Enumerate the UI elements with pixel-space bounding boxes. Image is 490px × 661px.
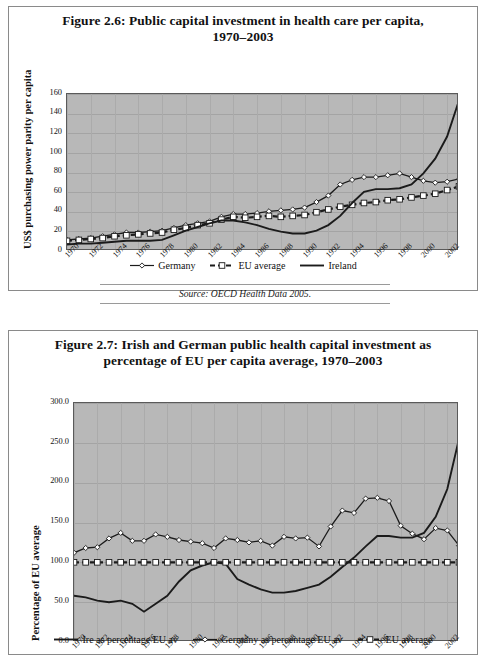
y-axis-tick-label: 60 [22,186,62,195]
data-point-marker-square [409,194,415,200]
data-point-marker-square [444,187,450,193]
data-point-marker-square [135,231,141,237]
data-point-marker-diamond [456,543,458,548]
data-point-marker-square [112,233,118,239]
legend-entry: Ireland [299,259,356,271]
data-point-marker-square [340,559,346,565]
data-point-marker-square [361,200,367,206]
y-axis-tick-label: 160 [22,88,62,97]
legend-entry: EU average [209,259,285,271]
data-point-marker-diamond [141,538,146,543]
legend-solid-line-icon [53,635,79,644]
data-point-marker-square [141,559,147,565]
figure-2-6-title: Figure 2.6: Public capital investment in… [35,13,451,46]
data-point-marker-square [95,559,101,565]
figure-2-6-title-line1: Figure 2.6: Public capital investment in… [62,13,424,28]
data-point-marker-square [305,559,311,565]
data-point-marker-square [278,214,284,220]
data-point-marker-square [302,212,308,218]
legend-label: Germany as percentage EU av [221,634,343,645]
figure-2-6-legend: GermanyEU averageIreland [9,258,477,271]
data-point-marker-diamond [397,171,402,176]
figure-2-7-title-line2: percentage of EU per capita average, 197… [104,353,383,368]
y-axis-tick-label: 150.0 [29,516,69,525]
data-point-marker-square [363,559,369,565]
data-point-marker-square [293,559,299,565]
data-point-marker-square [326,206,332,212]
figure-2-7-title-line1: Figure 2.7: Irish and German public heal… [55,337,432,352]
data-point-marker-square [456,559,458,565]
y-axis-tick-label: 300.0 [29,397,69,406]
legend-square-dashed-icon [209,261,235,270]
legend-diamond-marker-icon [192,635,218,644]
data-point-marker-square [398,559,404,565]
data-point-marker-diamond [235,537,240,542]
data-point-marker-diamond [176,537,181,542]
legend-entry: Germany [129,259,195,271]
data-point-marker-square [445,559,451,565]
data-point-marker-square [106,559,112,565]
source-rule-bottom [100,303,390,304]
y-axis-tick-label: 100 [22,147,62,156]
data-point-marker-square [124,232,130,238]
figure-2-7-plot-area [73,402,458,641]
data-point-marker-square [266,213,272,219]
data-point-marker-square [421,192,427,198]
data-point-marker-square [147,230,153,236]
data-point-marker-diamond [188,539,193,544]
y-axis-tick-label: 40 [22,205,62,214]
figure-2-6-plot-area [66,93,458,250]
data-point-marker-square [254,214,260,220]
data-point-marker-square [328,559,334,565]
data-point-marker-square [159,229,165,235]
y-axis-tick-label: 100.0 [29,556,69,565]
data-point-marker-diamond [421,178,426,183]
legend-solid-line-icon [299,261,325,270]
y-axis-tick-label: 20 [22,225,62,234]
data-point-marker-diamond [290,207,295,212]
legend-label: EU average [238,260,285,271]
y-axis-tick-label: 80 [22,166,62,175]
data-point-marker-diamond [456,176,458,181]
data-point-marker-square [66,238,70,244]
data-point-marker-square [76,237,82,243]
data-point-marker-diamond [445,179,450,184]
data-point-marker-diamond [349,177,354,182]
data-point-marker-diamond [258,538,263,543]
data-point-marker-diamond [385,172,390,177]
figure-2-7-box: Figure 2.7: Irish and German public heal… [8,330,478,655]
data-point-marker-square [410,559,416,565]
y-axis-tick-label: 200.0 [29,476,69,485]
data-point-marker-diamond [83,545,88,550]
series-line-germany [67,173,458,240]
data-point-marker-square [88,236,94,242]
data-point-marker-square [242,215,248,221]
data-point-marker-diamond [165,534,170,539]
legend-label: EU average [386,634,433,645]
figure-2-7-title: Figure 2.7: Irish and German public heal… [35,337,451,370]
data-point-marker-square [211,559,217,565]
legend-label: Ire as percentage EU av [82,634,178,645]
data-point-marker-square [397,196,403,202]
data-point-marker-diamond [373,174,378,179]
data-point-marker-square [290,213,296,219]
data-point-marker-square [100,235,106,241]
data-point-marker-square [432,191,438,197]
data-point-marker-square [118,559,124,565]
legend-entry: Germany as percentage EU av [192,633,343,645]
data-point-marker-square [351,559,357,565]
data-point-marker-square [188,559,194,565]
data-point-marker-square [421,559,427,565]
data-point-marker-square [153,559,159,565]
data-point-marker-square [235,559,241,565]
data-point-marker-square [83,559,89,565]
data-point-marker-diamond [386,498,391,503]
data-point-marker-diamond [433,180,438,185]
data-point-marker-square [176,559,182,565]
data-point-marker-square [337,204,343,210]
y-axis-tick-label: 0 [22,245,62,254]
data-point-marker-square [385,197,391,203]
data-point-marker-square [314,209,320,215]
data-point-marker-square [200,559,206,565]
figure-2-6-title-line2: 1970–2003 [212,29,273,44]
